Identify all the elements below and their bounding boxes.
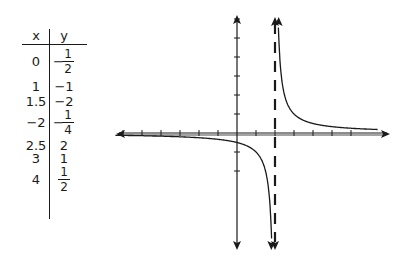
curve-right-branch: [278, 27, 377, 129]
rational-function-graph: [0, 0, 412, 261]
x-axis-left-arrow-icon: [116, 130, 125, 138]
x-axis-right-arrow-icon: [381, 130, 390, 138]
curve-left-branch: [115, 135, 271, 238]
